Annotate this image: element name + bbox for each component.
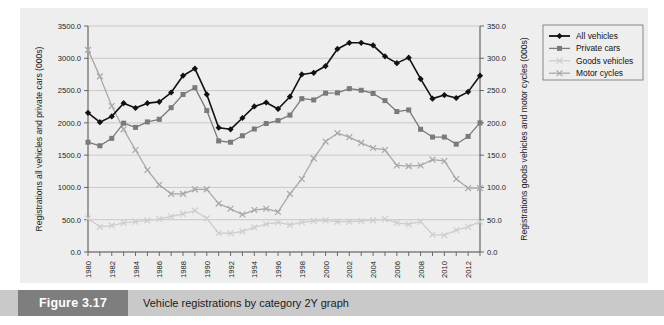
y-axis-left-title: Registrations all vehicles and private c… [34, 46, 44, 231]
figure-number-badge: Figure 3.17 [18, 290, 128, 316]
y-axis-right-label-4: 200.0 [487, 119, 506, 128]
data-point [192, 85, 197, 90]
x-axis-label-14: 2008 [417, 261, 426, 278]
data-point [418, 127, 423, 132]
y-axis-left-label-1: 500.0 [62, 216, 81, 225]
x-axis-label-4: 1988 [179, 261, 188, 278]
legend-label-2: Goods vehicles [576, 56, 633, 66]
data-point [145, 119, 150, 124]
y-axis-left-label-5: 2500.0 [58, 86, 81, 95]
data-point [228, 140, 233, 145]
legend-label-0: All vehicles [576, 31, 618, 41]
chart-panel: 0.0500.01000.01500.02000.02500.03000.035… [20, 8, 648, 283]
data-point [478, 120, 483, 125]
x-axis-label-6: 1992 [227, 261, 236, 278]
legend-label-3: Motor cycles [576, 68, 623, 78]
data-point [204, 108, 209, 113]
data-point [252, 126, 257, 131]
y-axis-left-label-4: 2000.0 [58, 119, 81, 128]
y-axis-right-label-3: 150.0 [487, 151, 506, 160]
data-point [335, 90, 340, 95]
figure-caption: Vehicle registrations by category 2Y gra… [143, 290, 349, 316]
x-axis-label-5: 1990 [203, 261, 212, 278]
y-axis-right-label-1: 50.0 [487, 216, 502, 225]
data-point [133, 125, 138, 130]
data-point [181, 92, 186, 97]
x-axis-label-2: 1984 [132, 261, 141, 278]
y-axis-right-label-6: 300.0 [487, 54, 506, 63]
y-axis-left-label-3: 1500.0 [58, 151, 81, 160]
data-point [442, 135, 447, 140]
data-point [311, 97, 316, 102]
data-point [86, 140, 91, 145]
y-axis-right-label-2: 100.0 [487, 183, 506, 192]
x-axis-label-7: 1994 [250, 261, 259, 278]
data-point [430, 135, 435, 140]
x-axis-label-3: 1986 [155, 261, 164, 278]
y-axis-right-label-0: 0.0 [487, 248, 498, 257]
x-axis-label-12: 2004 [369, 261, 378, 278]
y-axis-left-label-7: 3500.0 [58, 22, 81, 31]
x-axis-label-0: 1980 [84, 261, 93, 278]
x-axis-label-15: 2010 [440, 261, 449, 278]
y-axis-left-label-6: 3000.0 [58, 54, 81, 63]
data-point [454, 142, 459, 147]
data-point [371, 91, 376, 96]
x-axis-label-8: 1996 [274, 261, 283, 278]
data-point [109, 136, 114, 141]
vehicle-registrations-chart: 0.0500.01000.01500.02000.02500.03000.035… [20, 8, 648, 283]
x-axis-label-1: 1982 [108, 261, 117, 278]
y-axis-left-label-0: 0.0 [70, 248, 81, 257]
data-point [323, 91, 328, 96]
data-point [240, 133, 245, 138]
y-axis-right-label-5: 250.0 [487, 86, 506, 95]
y-axis-right-title: Registrations goods vehicles and motor c… [519, 37, 529, 241]
y-axis-right-label-7: 350.0 [487, 22, 506, 31]
x-axis-label-16: 2012 [464, 261, 473, 278]
x-axis-label-10: 2000 [322, 261, 331, 278]
legend-swatch-marker-1 [557, 46, 562, 51]
data-point [406, 107, 411, 112]
legend-label-1: Private cars [576, 43, 620, 53]
y-axis-left-label-2: 1000.0 [58, 183, 81, 192]
data-point [276, 118, 281, 123]
data-point [347, 86, 352, 91]
data-point [382, 98, 387, 103]
data-point [121, 121, 126, 126]
data-point [394, 109, 399, 114]
data-point [299, 96, 304, 101]
data-point [97, 143, 102, 148]
x-axis-label-11: 2002 [345, 261, 354, 278]
data-point [359, 88, 364, 93]
data-point [157, 117, 162, 122]
x-axis-label-13: 2006 [393, 261, 402, 278]
figure-container: 0.0500.01000.01500.02000.02500.03000.035… [0, 0, 664, 325]
data-point [169, 105, 174, 110]
x-axis-label-9: 1998 [298, 261, 307, 278]
data-point [264, 121, 269, 126]
data-point [216, 138, 221, 143]
data-point [466, 134, 471, 139]
chart-legend: All vehiclesPrivate carsGoods vehiclesMo… [543, 25, 643, 80]
data-point [287, 113, 292, 118]
bottom-strip [0, 316, 664, 325]
